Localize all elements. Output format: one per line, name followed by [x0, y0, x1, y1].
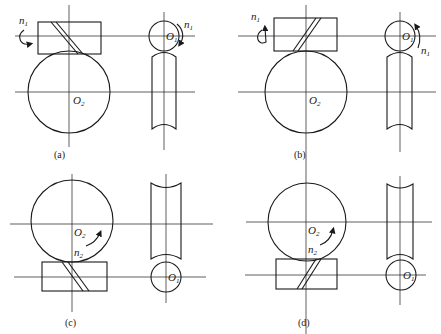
gear-center-label: O2	[309, 94, 321, 108]
panel-caption: (b)	[294, 149, 306, 161]
wheel-speed-label: n1	[421, 44, 430, 58]
gear-center-label: O2	[74, 226, 86, 240]
wheel-center-label: O1	[166, 30, 177, 44]
worm-body	[274, 18, 337, 51]
gear-rotation-arrow-icon	[86, 233, 100, 246]
worm-thread-line	[62, 262, 83, 291]
gear-speed-label: n2	[74, 246, 84, 260]
panel-a: n1 O2 O1 n1 (a)	[15, 5, 195, 161]
worm-rotation-arrow-icon	[258, 28, 266, 43]
worm-thread-line	[297, 259, 316, 289]
worm-thread-line	[68, 262, 89, 291]
panel-caption: (a)	[54, 149, 65, 161]
gear-speed-label: n2	[308, 243, 318, 257]
panel-caption: (c)	[65, 317, 76, 329]
wheel-center-label: O1	[403, 269, 414, 283]
wheel-center-label: O1	[168, 271, 179, 285]
worm-rotation-arrow-icon	[20, 30, 30, 44]
worm-thread-line	[293, 18, 316, 51]
gear-center-label: O2	[73, 94, 85, 108]
gear-center-label: O2	[308, 224, 320, 238]
panel-caption: (d)	[298, 317, 310, 329]
worm-thread-line	[51, 22, 78, 54]
worm-body	[42, 262, 107, 291]
worm-thread-line	[56, 22, 83, 54]
wheel-rim-side	[387, 53, 412, 130]
wheel-speed-label: n1	[184, 18, 193, 32]
worm-speed-label: n1	[251, 10, 260, 24]
worm-thread-line	[302, 259, 321, 289]
panel-c: O2 n2 O1 (c)	[10, 174, 213, 329]
gear-rotation-arrow-icon	[320, 230, 333, 245]
worm-gear-diagram: n1 O2 O1 n1 (a) n1 O2 O1 n1 (b)	[0, 0, 441, 334]
wheel-rotation-arrow-icon	[416, 26, 420, 48]
worm-thread-line	[298, 18, 321, 51]
wheel-center-label: O1	[402, 30, 413, 44]
worm-speed-label: n1	[19, 14, 28, 28]
panel-d: O2 n2 O1 (d)	[245, 176, 432, 329]
